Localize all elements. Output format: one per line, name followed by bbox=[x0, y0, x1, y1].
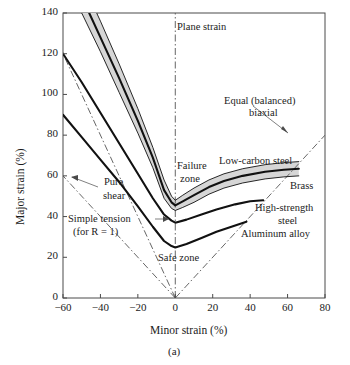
annotation-failure-zone-line1: Failure bbox=[177, 160, 207, 171]
y-axis-title: Major strain (%) bbox=[14, 148, 26, 225]
x-tick-label: 80 bbox=[314, 302, 336, 314]
x-tick-label: −60 bbox=[52, 302, 74, 314]
annotation-plane-strain: Plane strain bbox=[177, 21, 226, 32]
forming-limit-diagram-figure: Minor strain (%) Major strain (%) (a) −6… bbox=[0, 0, 350, 365]
y-tick-label: 0 bbox=[31, 291, 58, 303]
x-tick-label: 20 bbox=[202, 302, 224, 314]
x-tick-label: 60 bbox=[277, 302, 299, 314]
x-tick-label: −40 bbox=[89, 302, 111, 314]
y-tick-label: 60 bbox=[31, 169, 58, 181]
annotation-low-carbon-steel: Low-carbon steel bbox=[219, 155, 292, 166]
annotation-pure-shear-line1: Pure bbox=[104, 176, 123, 187]
annotation-safe-zone: Safe zone bbox=[158, 252, 199, 263]
y-tick-label: 100 bbox=[31, 87, 58, 99]
y-tick-label: 140 bbox=[31, 6, 58, 18]
y-tick-label: 20 bbox=[31, 250, 58, 262]
y-tick-label: 80 bbox=[31, 128, 58, 140]
x-tick-label: −20 bbox=[127, 302, 149, 314]
x-tick-label: 40 bbox=[239, 302, 261, 314]
annotation-simple-tension-line1: Simple tension bbox=[68, 213, 131, 224]
annotation-equal-biaxial-line2: biaxial bbox=[249, 107, 278, 118]
annotation-aluminum-alloy: Aluminum alloy bbox=[241, 228, 310, 239]
annotation-equal-biaxial-line1: Equal (balanced) bbox=[224, 95, 295, 106]
annotation-high-strength-steel-line2: steel bbox=[278, 215, 297, 226]
y-tick-label: 40 bbox=[31, 210, 58, 222]
annotation-high-strength-steel-line1: High-strength bbox=[255, 202, 313, 213]
annotation-simple-tension-line2: (for R = 1) bbox=[73, 226, 118, 237]
x-axis-title: Minor strain (%) bbox=[150, 324, 227, 336]
x-tick-label: 0 bbox=[164, 302, 186, 314]
y-tick-label: 120 bbox=[31, 47, 58, 59]
annotation-brass: Brass bbox=[290, 180, 313, 191]
annotation-pure-shear-line2: shear bbox=[103, 190, 125, 201]
figure-caption: (a) bbox=[168, 346, 180, 358]
annotation-failure-zone-line2: zone bbox=[180, 173, 200, 184]
